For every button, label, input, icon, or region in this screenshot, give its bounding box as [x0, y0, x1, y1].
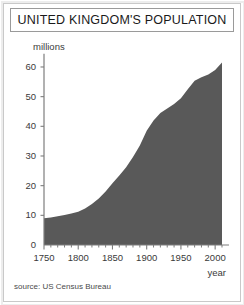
x-axis-tick-label: 2000	[199, 252, 231, 263]
x-axis-tick-label: 1950	[165, 252, 197, 263]
y-axis-tick-label: 60	[14, 61, 36, 72]
y-axis-tick-label: 20	[14, 180, 36, 191]
y-axis-tick-label: 10	[14, 209, 36, 220]
x-axis-tick-label: 1750	[28, 252, 60, 263]
x-axis-tick-label: 1900	[131, 252, 163, 263]
y-axis-tick-label: 40	[14, 120, 36, 131]
y-axis-tick-label: 0	[14, 239, 36, 250]
y-axis-tick-label: 50	[14, 91, 36, 102]
y-axis-tick-label: 30	[14, 150, 36, 161]
x-axis-tick-label: 1850	[96, 252, 128, 263]
x-axis-tick-label: 1800	[62, 252, 94, 263]
source-note: source: US Census Bureau	[14, 282, 111, 291]
area-series	[44, 63, 222, 245]
x-axis-label: year	[208, 267, 226, 278]
chart-figure: UNITED KINGDOM'S POPULATION millions 010…	[0, 0, 244, 305]
